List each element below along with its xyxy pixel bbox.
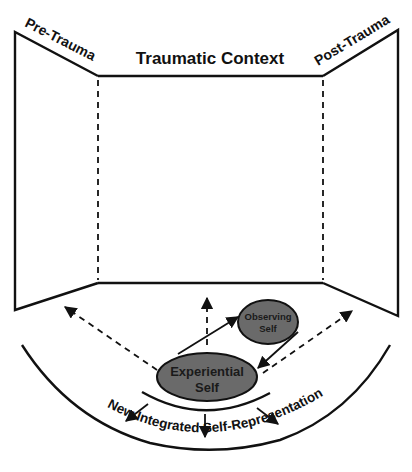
observing-self-node: Observing Self: [238, 300, 298, 344]
experiential-self-line1: Experiential: [170, 364, 244, 379]
experiential-self-node: Experiential Self: [157, 353, 257, 401]
observing-self-line2: Self: [259, 323, 277, 334]
arrow-experiential-to-observing: [178, 317, 238, 354]
observing-self-line1: Observing: [245, 311, 292, 322]
pre-trauma-panel: [15, 32, 98, 310]
dashed-arrow-to-pre-trauma: [65, 307, 157, 370]
experiential-self-line2: Self: [195, 380, 220, 395]
post-trauma-panel: [323, 30, 398, 316]
self-representation-diagram: Pre-Trauma Traumatic Context Post-Trauma…: [0, 0, 412, 472]
traumatic-context-label: Traumatic Context: [136, 49, 285, 68]
